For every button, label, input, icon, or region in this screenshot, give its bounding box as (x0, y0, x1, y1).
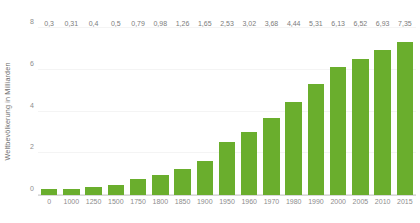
x-axis-tick-label: 1900 (194, 198, 216, 214)
bar-series: 0,30,310,40,50,790,981,261,652,533,023,6… (38, 28, 416, 195)
bar-value-label: 3,02 (242, 20, 256, 27)
x-axis-tick-label: 1960 (238, 198, 260, 214)
y-axis-tick-label: 0 (30, 185, 34, 192)
bar[interactable]: 3,68 (263, 118, 279, 195)
bar-value-label: 1,26 (176, 20, 190, 27)
y-axis-tick-label: 6 (30, 59, 34, 66)
bar-slot[interactable]: 6,13 (327, 28, 349, 195)
bar-value-label: 0,98 (153, 20, 167, 27)
bar-chart: Weltbevölkerung in Milliarden 02468 0,30… (0, 0, 420, 223)
x-axis-tick-label: 2005 (349, 198, 371, 214)
x-axis-tick-labels: 0100012501500175018001850190019501960197… (38, 198, 416, 214)
bar-slot[interactable]: 0,79 (127, 28, 149, 195)
plot-area: 02468 0,30,310,40,50,790,981,261,652,533… (38, 28, 416, 195)
x-axis-tick-label: 1000 (60, 198, 82, 214)
bar[interactable]: 2,53 (219, 142, 235, 195)
bar[interactable]: 7,35 (397, 42, 413, 195)
x-axis-tick-label: 0 (38, 198, 60, 214)
x-axis-tick-label: 1970 (260, 198, 282, 214)
bar[interactable]: 4,44 (285, 102, 301, 195)
bar-value-label: 4,44 (287, 20, 301, 27)
x-axis-tick-label: 1950 (216, 198, 238, 214)
bar-slot[interactable]: 0,98 (149, 28, 171, 195)
y-axis-tick-label: 8 (30, 18, 34, 25)
bar-slot[interactable]: 0,5 (105, 28, 127, 195)
x-axis-tick-label: 1750 (127, 198, 149, 214)
bar-slot[interactable]: 0,3 (38, 28, 60, 195)
y-axis-tick-label: 4 (30, 101, 34, 108)
bar[interactable]: 3,02 (241, 132, 257, 195)
bar-value-label: 0,4 (89, 20, 99, 27)
bar-slot[interactable]: 3,02 (238, 28, 260, 195)
bar-slot[interactable]: 5,31 (305, 28, 327, 195)
bar-value-label: 1,65 (198, 20, 212, 27)
bar-slot[interactable]: 1,26 (171, 28, 193, 195)
bar[interactable]: 5,31 (308, 84, 324, 195)
bar[interactable]: 0,4 (85, 187, 101, 195)
x-axis-tick-label: 1990 (305, 198, 327, 214)
y-axis-title: Weltbevölkerung in Milliarden (0, 0, 14, 223)
x-axis-tick-label: 1500 (105, 198, 127, 214)
x-axis-tick-label: 1850 (171, 198, 193, 214)
bar-value-label: 6,93 (376, 20, 390, 27)
x-axis-line (38, 195, 416, 196)
bar-value-label: 0,3 (44, 20, 54, 27)
bar-value-label: 0,31 (65, 20, 79, 27)
bar-slot[interactable]: 6,52 (349, 28, 371, 195)
bar[interactable]: 6,13 (330, 67, 346, 195)
bar-slot[interactable]: 4,44 (283, 28, 305, 195)
bar-value-label: 6,52 (354, 20, 368, 27)
bar[interactable]: 0,79 (130, 179, 146, 195)
bar[interactable]: 1,26 (174, 169, 190, 195)
bar-value-label: 3,68 (265, 20, 279, 27)
bar-slot[interactable]: 7,35 (394, 28, 416, 195)
y-axis-tick-label: 2 (30, 143, 34, 150)
bar-slot[interactable]: 0,31 (60, 28, 82, 195)
bar-value-label: 0,5 (111, 20, 121, 27)
bar[interactable]: 0,98 (152, 175, 168, 195)
bar-slot[interactable]: 0,4 (82, 28, 104, 195)
bar-slot[interactable]: 2,53 (216, 28, 238, 195)
bar-value-label: 7,35 (398, 20, 412, 27)
bar-value-label: 0,79 (131, 20, 145, 27)
x-axis-tick-label: 2000 (327, 198, 349, 214)
bar[interactable]: 6,52 (352, 59, 368, 195)
x-axis-tick-label: 2015 (394, 198, 416, 214)
x-axis-tick-label: 1250 (82, 198, 104, 214)
bar-value-label: 2,53 (220, 20, 234, 27)
bar[interactable]: 1,65 (197, 161, 213, 195)
bar-value-label: 6,13 (331, 20, 345, 27)
x-axis-tick-label: 2010 (372, 198, 394, 214)
bar[interactable]: 0,5 (108, 185, 124, 195)
bar-slot[interactable]: 3,68 (260, 28, 282, 195)
bar[interactable]: 6,93 (374, 50, 390, 195)
bar-slot[interactable]: 1,65 (194, 28, 216, 195)
x-axis-tick-label: 1980 (283, 198, 305, 214)
bar-slot[interactable]: 6,93 (372, 28, 394, 195)
bar-value-label: 5,31 (309, 20, 323, 27)
x-axis-tick-label: 1800 (149, 198, 171, 214)
